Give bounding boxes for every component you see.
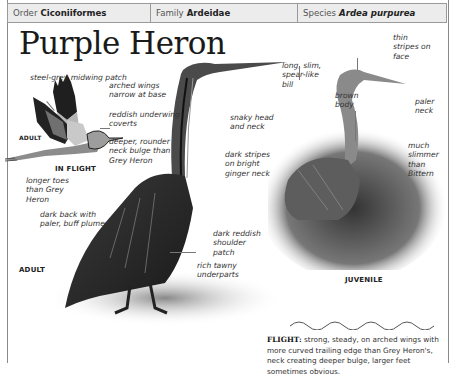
leader-line: [355, 111, 356, 141]
label-snaky-head-neck: snaky head and neck: [230, 113, 280, 132]
family-value: Ardeidae: [187, 8, 231, 18]
label-reddish-underwing-coverts: reddish underwing coverts: [109, 110, 194, 129]
order-cell: Order Ciconiiformes: [8, 4, 150, 22]
flight-age-label: ADULT: [19, 134, 41, 141]
label-deeper-neck-bulge: deeper, rounder neck bulge than Grey Her…: [109, 137, 184, 165]
species-label: Species: [303, 8, 336, 18]
leader-line: [100, 128, 110, 129]
label-arched-wings: arched wings narrow at base: [109, 81, 179, 100]
leader-line: [170, 252, 196, 253]
label-dark-stripes-neck: dark stripes on bright ginger neck: [225, 150, 280, 178]
label-long-slim-bill: long, slim, spear-like bill: [282, 61, 324, 89]
label-dark-back: dark back with paler, buff plumes: [40, 210, 112, 229]
species-cell: Species Ardea purpurea: [297, 4, 446, 22]
species-value: Ardea purpurea: [339, 8, 415, 18]
flight-note: FLIGHT: strong, steady, on arched wings …: [267, 335, 445, 377]
label-tawny-underparts: rich tawny underparts: [197, 261, 242, 280]
leader-line: [299, 66, 300, 80]
label-thin-stripes-face: thin stripes on face: [393, 33, 433, 61]
order-label: Order: [13, 8, 37, 18]
wave-divider-icon: [290, 318, 440, 330]
in-flight-caption: IN FLIGHT: [55, 165, 96, 173]
label-shoulder-patch: dark reddish shoulder patch: [213, 229, 268, 257]
family-cell: Family Ardeidae: [150, 4, 297, 22]
label-brown-body: brown body: [335, 91, 365, 110]
flight-note-heading: FLIGHT:: [267, 335, 302, 344]
order-value: Ciconiiformes: [40, 8, 106, 18]
juvenile-caption: JUVENILE: [345, 276, 383, 284]
label-slimmer-than-bittern: much slimmer than Bittern: [408, 141, 446, 179]
family-label: Family: [156, 8, 184, 18]
label-longer-toes: longer toes than Grey Heron: [26, 176, 70, 204]
taxonomy-header: Order Ciconiiformes Family Ardeidae Spec…: [7, 3, 447, 23]
page-title: Purple Heron: [19, 25, 225, 61]
label-paler-neck: paler neck: [415, 97, 445, 116]
adult-age-label: ADULT: [19, 266, 45, 274]
leader-line: [357, 58, 358, 70]
